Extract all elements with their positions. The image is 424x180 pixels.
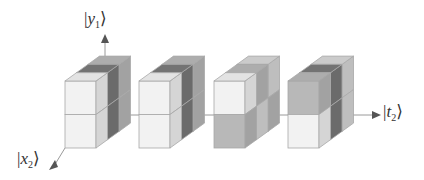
t-axis-arrow-icon: [372, 111, 381, 119]
cell-front: [139, 115, 170, 149]
tensor-diagram: [0, 0, 424, 180]
cell-front: [65, 115, 96, 149]
cell-front: [139, 81, 170, 115]
x-axis-label: |x2⟩: [17, 150, 40, 170]
block-2: [139, 56, 205, 148]
block-1: [65, 56, 131, 148]
cell-front: [288, 115, 319, 149]
tensor-blocks: [65, 56, 354, 148]
cell-front: [65, 81, 96, 115]
y-axis-arrow-icon: [101, 34, 109, 43]
cell-front: [214, 115, 245, 149]
y-axis-label: |y1⟩: [84, 10, 107, 30]
block-3: [214, 56, 280, 148]
cell-front: [214, 81, 245, 115]
block-4: [288, 56, 354, 148]
t-axis-label: |t2⟩: [383, 103, 403, 123]
cell-front: [288, 81, 319, 115]
